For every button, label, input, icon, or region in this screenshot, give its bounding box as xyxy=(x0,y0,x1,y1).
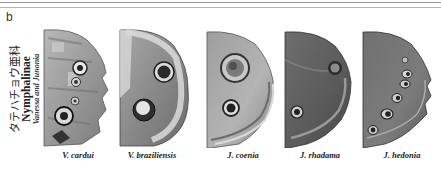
specimen-label-v-cardui: V. cardui xyxy=(62,150,94,160)
specimen-label-j-rhadama: J. rhadama xyxy=(300,150,340,160)
vertical-caption: タテハチョウ亜科 Nymphalinae Vanessa and Junonia xyxy=(8,30,42,148)
specimen-label-v-braziliensis: V. braziliensis xyxy=(128,150,177,160)
caption-subfamily: Nymphalinae xyxy=(21,45,33,133)
caption-genera: Vanessa and Junonia xyxy=(32,45,40,133)
top-border-rule-inner xyxy=(0,7,441,8)
specimen-label-j-hedonia: J. hedonia xyxy=(384,150,421,160)
wing-image-j-coenia xyxy=(205,30,277,148)
specimen-label-j-coenia: J. coenia xyxy=(227,150,259,160)
wing-image-j-hedonia xyxy=(361,30,433,148)
wing-image-j-rhadama xyxy=(283,30,355,148)
wing-image-v-braziliensis xyxy=(118,28,190,148)
wing-image-v-cardui xyxy=(42,28,112,148)
panel-letter: b xyxy=(6,10,13,24)
top-border-rule xyxy=(0,2,441,3)
